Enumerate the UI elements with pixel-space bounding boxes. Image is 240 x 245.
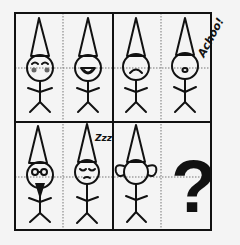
zzz-label: Zzz [94,133,113,143]
gnome-glasses-beard [27,126,53,222]
gnome-big-ears [116,125,157,222]
gnome-blushing [27,18,53,112]
question-mark: ? [171,145,216,228]
gnome-sleeping: Zzz [75,124,113,223]
gnome-frowning [123,18,149,112]
gnome-puzzle: Achoo! Zzz ? [0,0,240,245]
gnome-sneezing: Achoo! [172,16,227,112]
gnome-smiling [75,18,101,112]
